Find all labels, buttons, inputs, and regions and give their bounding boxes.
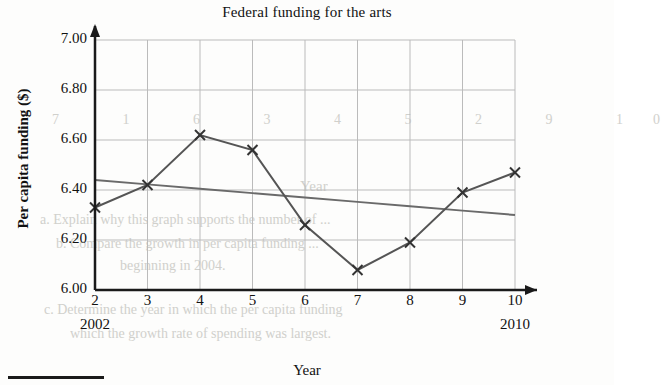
y-tick-label: 6.40 [17,180,87,197]
x-axis-year-label: 2010 [485,316,545,333]
y-tick-label: 6.20 [17,230,87,247]
y-tick-label: 6.80 [17,80,87,97]
x-tick-label: 4 [180,292,220,309]
footer-rule [8,376,104,379]
axes [90,24,537,295]
x-tick-label: 2 [75,292,115,309]
x-tick-label: 9 [443,292,483,309]
y-tick-label: 6.60 [17,130,87,147]
gridlines [95,40,515,290]
x-tick-label: 10 [495,292,535,309]
x-axis-year-label: 2002 [65,316,125,333]
x-tick-label: 7 [338,292,378,309]
chart-title: Federal funding for the arts [0,4,614,21]
y-tick-label: 7.00 [17,30,87,47]
x-tick-label: 3 [128,292,168,309]
x-tick-label: 8 [390,292,430,309]
x-tick-label: 5 [233,292,273,309]
plot-area: 7.006.806.606.406.206.00 234567891020022… [95,40,515,290]
x-tick-label: 6 [285,292,325,309]
chart-svg [95,40,515,290]
